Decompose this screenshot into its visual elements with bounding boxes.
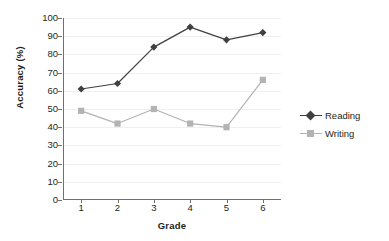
data-point-square xyxy=(187,120,193,126)
y-tick-label: 100 xyxy=(32,13,58,23)
legend-item-reading[interactable]: Reading xyxy=(300,106,386,124)
y-tick-label: 90 xyxy=(32,31,58,41)
chart-legend: ReadingWriting xyxy=(300,106,386,142)
data-point-diamond xyxy=(223,36,230,43)
x-tick-label: 2 xyxy=(106,203,130,213)
legend-label: Writing xyxy=(325,128,354,139)
y-axis-tick-labels: 0102030405060708090100 xyxy=(30,18,58,200)
y-axis-title: Accuracy (%) xyxy=(14,23,25,133)
y-tick-mark xyxy=(58,127,62,128)
y-tick-mark xyxy=(58,73,62,74)
y-tick-label: 20 xyxy=(32,159,58,169)
y-tick-label: 30 xyxy=(32,140,58,150)
line-chart: Accuracy (%) 0102030405060708090100 1234… xyxy=(0,0,389,241)
data-point-diamond xyxy=(187,24,194,31)
y-tick-mark xyxy=(58,91,62,92)
y-tick-label: 10 xyxy=(32,177,58,187)
legend-swatch-icon xyxy=(300,127,322,139)
x-axis-title: Grade xyxy=(63,220,281,231)
y-tick-label: 70 xyxy=(32,68,58,78)
data-point-diamond xyxy=(259,29,266,36)
x-tick-label: 4 xyxy=(178,203,202,213)
series-line xyxy=(81,80,263,127)
series-line xyxy=(81,27,263,89)
y-tick-mark xyxy=(58,109,62,110)
x-tick-mark xyxy=(227,199,228,203)
x-tick-mark xyxy=(190,199,191,203)
x-tick-mark xyxy=(154,199,155,203)
legend-diamond-icon xyxy=(306,110,316,120)
data-point-square xyxy=(151,106,157,112)
y-tick-mark xyxy=(58,18,62,19)
data-point-square xyxy=(223,124,229,130)
y-tick-mark xyxy=(58,200,62,201)
x-tick-label: 1 xyxy=(69,203,93,213)
x-tick-mark xyxy=(263,199,264,203)
legend-square-icon xyxy=(307,130,314,137)
data-point-square xyxy=(114,120,120,126)
y-tick-mark xyxy=(58,145,62,146)
y-tick-mark xyxy=(58,36,62,37)
data-point-square xyxy=(78,108,84,114)
x-tick-label: 5 xyxy=(215,203,239,213)
y-tick-label: 0 xyxy=(32,195,58,205)
y-tick-label: 60 xyxy=(32,86,58,96)
x-tick-label: 6 xyxy=(251,203,275,213)
y-tick-mark xyxy=(58,182,62,183)
y-tick-label: 40 xyxy=(32,122,58,132)
series-layer xyxy=(63,18,281,200)
legend-item-writing[interactable]: Writing xyxy=(300,124,386,142)
y-tick-mark xyxy=(58,54,62,55)
y-tick-label: 80 xyxy=(32,49,58,59)
legend-swatch-icon xyxy=(300,109,322,121)
data-point-square xyxy=(260,77,266,83)
x-axis-tick-labels: 123456 xyxy=(63,203,281,217)
x-tick-mark xyxy=(81,199,82,203)
data-point-diamond xyxy=(78,85,85,92)
series-reading xyxy=(78,24,267,93)
y-tick-mark xyxy=(58,164,62,165)
x-tick-label: 3 xyxy=(142,203,166,213)
x-tick-mark xyxy=(118,199,119,203)
legend-label: Reading xyxy=(325,110,360,121)
y-tick-label: 50 xyxy=(32,104,58,114)
